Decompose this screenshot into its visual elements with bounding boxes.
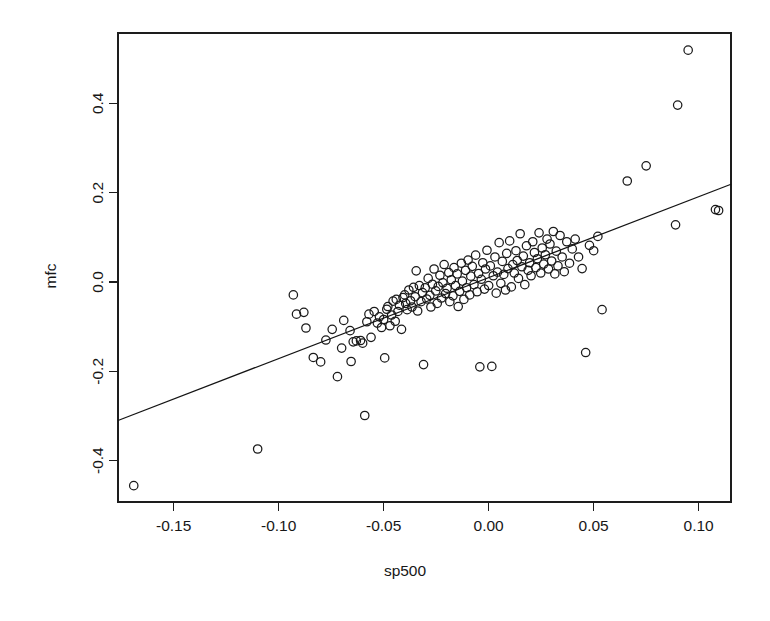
x-tick-label-4: 0.05 xyxy=(579,517,609,534)
y-tick-label-1: -0.2 xyxy=(90,358,107,385)
x-tick-label-2: -0.05 xyxy=(366,517,401,534)
data-point xyxy=(468,262,476,270)
x-axis-ticks xyxy=(174,502,699,511)
data-point xyxy=(316,358,324,366)
y-tick-label-3: 0.2 xyxy=(90,182,107,204)
data-point xyxy=(289,291,297,299)
x-tick-label-5: 0.10 xyxy=(684,517,715,534)
data-point xyxy=(381,354,389,362)
data-point xyxy=(598,305,606,313)
data-point xyxy=(367,333,375,341)
data-point xyxy=(546,240,554,248)
data-point xyxy=(483,246,491,254)
data-point xyxy=(539,260,547,268)
data-point xyxy=(386,322,394,330)
data-point xyxy=(454,302,462,310)
x-axis-title: sp500 xyxy=(384,562,427,579)
data-point xyxy=(571,235,579,243)
data-point xyxy=(516,230,524,238)
x-tick-label-3: 0.00 xyxy=(474,517,505,534)
data-point xyxy=(333,372,341,380)
data-point xyxy=(565,259,573,267)
x-tick-label-0: -0.15 xyxy=(156,517,191,534)
data-point xyxy=(488,362,496,370)
data-point xyxy=(551,270,559,278)
data-point xyxy=(130,481,138,489)
data-point xyxy=(328,325,336,333)
data-point xyxy=(498,257,506,265)
y-tick-label-4: 0.4 xyxy=(90,92,107,114)
data-point xyxy=(537,269,545,277)
data-point xyxy=(560,268,568,276)
data-points-layer xyxy=(130,46,723,490)
x-tick-label-1: -0.10 xyxy=(261,517,297,534)
data-point xyxy=(673,101,681,109)
data-point xyxy=(302,324,310,332)
data-point xyxy=(503,249,511,257)
data-point xyxy=(391,317,399,325)
data-point xyxy=(529,238,537,246)
scatter-plot-figure: -0.15-0.10-0.050.000.050.10 -0.4-0.20.00… xyxy=(0,0,770,621)
data-point xyxy=(340,316,348,324)
data-point xyxy=(510,269,518,277)
data-point xyxy=(512,247,520,255)
data-point xyxy=(433,299,441,307)
data-point xyxy=(464,256,472,264)
data-point xyxy=(412,267,420,275)
y-axis-title: mfc xyxy=(42,263,59,288)
data-point xyxy=(585,241,593,249)
data-point xyxy=(337,344,345,352)
data-point xyxy=(347,357,355,365)
data-point xyxy=(574,253,582,261)
data-point xyxy=(492,289,500,297)
data-point xyxy=(581,348,589,356)
data-point xyxy=(397,325,405,333)
regression-line xyxy=(118,184,731,420)
x-axis-tick-labels: -0.15-0.10-0.050.000.050.10 xyxy=(156,517,714,534)
data-point xyxy=(589,247,597,255)
data-point xyxy=(361,411,369,419)
data-point xyxy=(543,235,551,243)
data-point xyxy=(476,363,484,371)
data-point xyxy=(471,251,479,259)
y-axis-ticks xyxy=(109,103,118,460)
data-point xyxy=(427,303,435,311)
plot-frame xyxy=(118,33,731,502)
data-point xyxy=(532,263,540,271)
data-point xyxy=(460,295,468,303)
data-point xyxy=(495,238,503,246)
data-point xyxy=(535,229,543,237)
data-point xyxy=(556,231,564,239)
data-point xyxy=(370,307,378,315)
data-point xyxy=(505,237,513,245)
y-tick-label-2: 0.0 xyxy=(90,271,107,293)
data-point xyxy=(642,162,650,170)
y-axis-tick-labels: -0.4-0.20.00.20.4 xyxy=(90,92,107,474)
data-point xyxy=(521,280,529,288)
data-point xyxy=(467,272,475,280)
data-point xyxy=(519,252,527,260)
data-point xyxy=(558,253,566,261)
data-point xyxy=(253,445,261,453)
data-point xyxy=(671,221,679,229)
data-point xyxy=(522,242,530,250)
data-point xyxy=(440,260,448,268)
data-point xyxy=(684,46,692,54)
data-point xyxy=(413,307,421,315)
data-point xyxy=(419,360,427,368)
data-point xyxy=(578,264,586,272)
data-point xyxy=(443,284,451,292)
y-tick-label-0: -0.4 xyxy=(90,447,107,474)
data-point xyxy=(563,238,571,246)
data-point xyxy=(623,177,631,185)
plot-canvas: -0.15-0.10-0.050.000.050.10 -0.4-0.20.00… xyxy=(0,0,770,621)
data-point xyxy=(365,310,373,318)
data-point xyxy=(424,274,432,282)
